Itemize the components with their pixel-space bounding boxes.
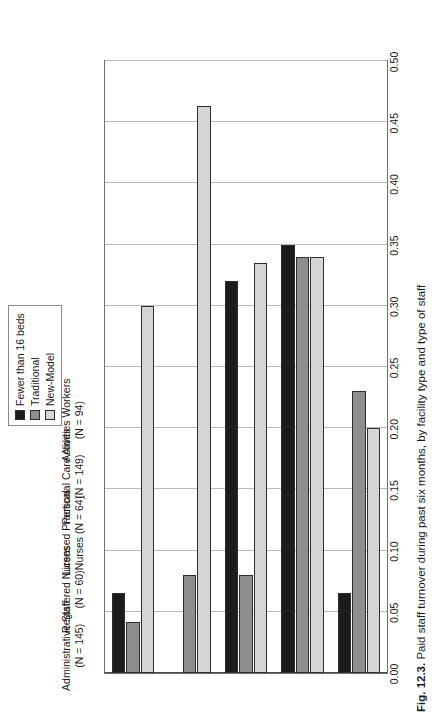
value-tick-label: 0.15 [388, 480, 400, 500]
caption-number: Fig. 12.3. [415, 663, 427, 712]
category-label: Activities Workers(N = 94) [60, 379, 85, 462]
bar [141, 306, 155, 673]
value-tick-label: 0.35 [388, 235, 400, 255]
category-label-line: Activities Workers [60, 379, 73, 462]
bar [352, 391, 366, 673]
legend-item-label: New-Model [44, 353, 56, 406]
legend-item: New-Model [44, 313, 56, 420]
value-tick-label: 0.50 [388, 52, 400, 72]
bar [197, 106, 211, 673]
legend-item-label: Traditional [29, 357, 41, 406]
rotated-figure-wrapper: Fewer than 16 bedsTraditionalNew-Model A… [0, 0, 442, 726]
bar [126, 622, 140, 673]
legend-item-label: Fewer than 16 beds [14, 313, 26, 406]
legend: Fewer than 16 bedsTraditionalNew-Model [8, 305, 62, 426]
gridline [105, 244, 387, 245]
bar [296, 257, 310, 673]
gridline [105, 60, 387, 61]
value-tick-label: 0.25 [388, 358, 400, 378]
figure-canvas: Fewer than 16 bedsTraditionalNew-Model A… [0, 0, 442, 726]
gridline [105, 182, 387, 183]
bar [239, 575, 253, 673]
gridline [105, 121, 387, 122]
bar [183, 575, 197, 673]
bar [367, 428, 381, 673]
figure-caption: Fig. 12.3. Paid staff turnover during pa… [414, 12, 428, 712]
plot-area [104, 60, 388, 674]
value-tick-label: 0.00 [388, 664, 400, 684]
value-tick-label: 0.20 [388, 419, 400, 439]
category-axis-labels: Administrative Staff(N = 145)Registered … [60, 62, 102, 674]
bar [310, 257, 324, 673]
category-label-line: (N = 94) [73, 379, 86, 462]
bar [112, 593, 126, 673]
value-tick-label: 0.05 [388, 603, 400, 623]
value-tick-label: 0.40 [388, 174, 400, 194]
bar [338, 593, 352, 673]
legend-swatch-icon [45, 410, 55, 420]
bar [254, 263, 268, 673]
value-tick-label: 0.45 [388, 113, 400, 133]
legend-swatch-icon [15, 410, 25, 420]
caption-text: Paid staff turnover during past six mont… [415, 285, 427, 660]
value-tick-label: 0.30 [388, 297, 400, 317]
bar [225, 281, 239, 673]
legend-item: Fewer than 16 beds [14, 313, 26, 420]
legend-swatch-icon [30, 410, 40, 420]
value-tick-label: 0.10 [388, 541, 400, 561]
legend-item: Traditional [29, 313, 41, 420]
bar [281, 245, 295, 673]
